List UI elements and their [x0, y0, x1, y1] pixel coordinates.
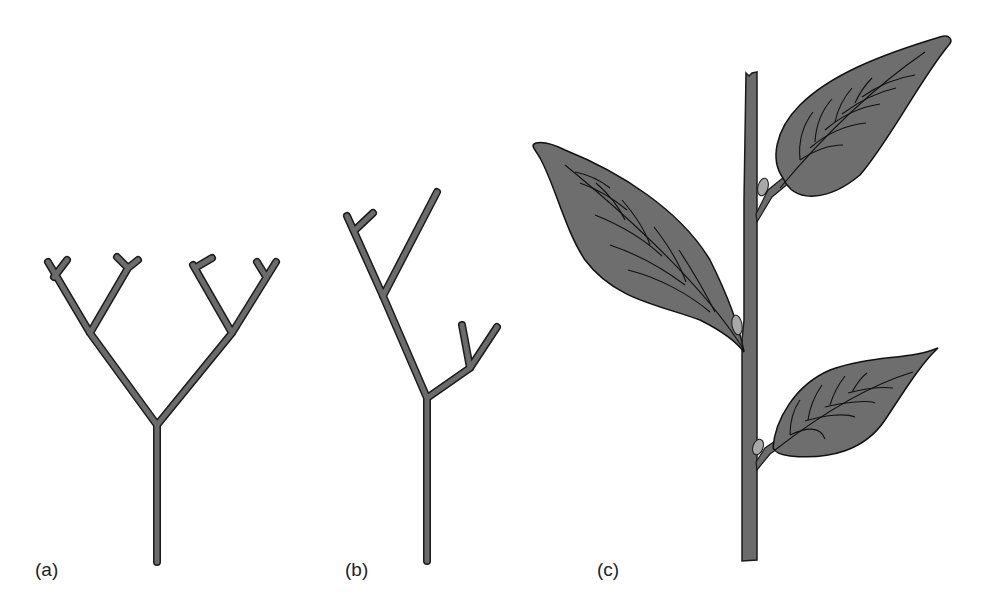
figure-canvas: [0, 0, 981, 601]
main-stem: [742, 72, 757, 561]
branch-fill: [48, 257, 276, 562]
leaf-left: [533, 142, 744, 352]
branch-outline: [48, 257, 276, 562]
branch-outline: [347, 192, 497, 561]
panel-c-leafy-stem: [533, 36, 951, 561]
panel-label-c: (c): [597, 560, 619, 579]
leaf-upper-right: [776, 36, 951, 196]
panel-label-a: (a): [35, 560, 58, 579]
panel-label-b: (b): [345, 560, 368, 579]
panel-a-dichotomous-branching: [48, 257, 276, 562]
panel-b-sympodial-branching: [347, 192, 497, 561]
